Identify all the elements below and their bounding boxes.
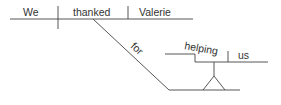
word-subject: We [23,6,39,18]
word-verb: thanked [73,6,111,18]
preposition-slant [93,19,169,90]
word-object: Valerie [139,6,171,18]
pedestal-triangle [203,76,225,90]
diagram-canvas: We thanked Valerie for helping us [0,0,281,105]
sentence-diagram: We thanked Valerie for helping us [0,0,281,105]
word-gerund-object: us [238,49,249,61]
